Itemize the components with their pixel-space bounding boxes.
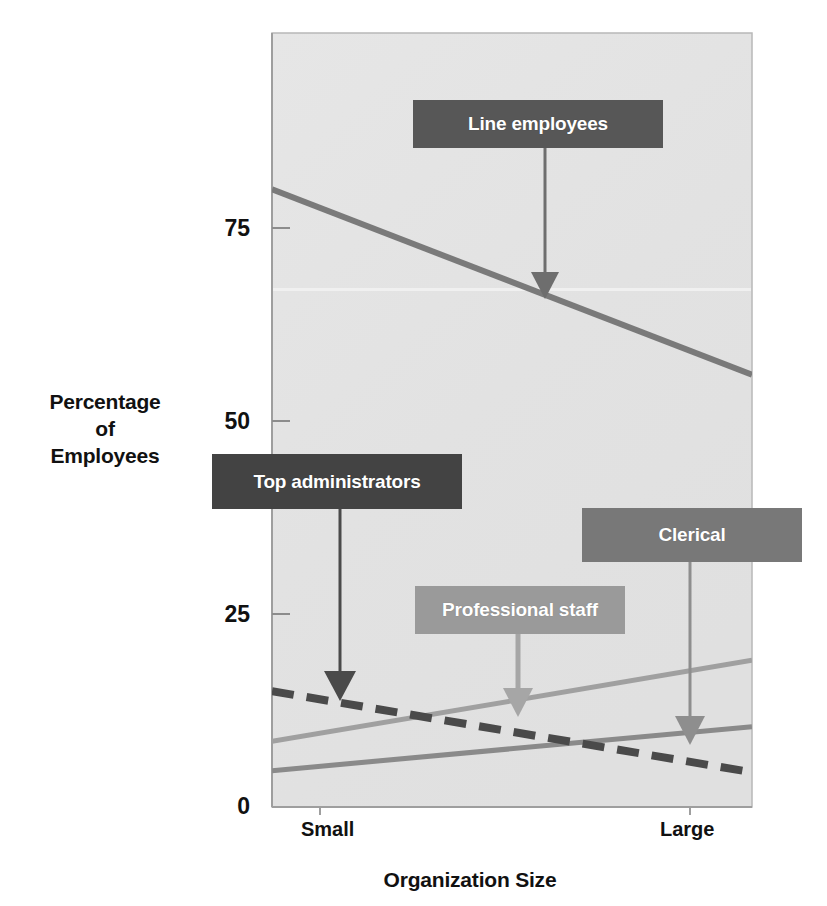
x-tick-label-large: Large: [660, 818, 714, 841]
y-tick-label-0: 0: [190, 793, 250, 820]
x-axis-title: Organization Size: [260, 868, 680, 892]
callout-professional-staff: Professional staff: [415, 586, 625, 634]
plot-highlight-band: [273, 288, 751, 291]
y-tick-label-50: 50: [190, 408, 250, 435]
callout-clerical: Clerical: [582, 508, 802, 562]
chart-container: Percentage of Employees Organization Siz…: [0, 0, 827, 906]
y-tick-label-75: 75: [190, 215, 250, 242]
callout-top-administrators: Top administrators: [212, 454, 462, 509]
x-tick-label-small: Small: [301, 818, 354, 841]
y-axis-title-line-1: Percentage: [10, 388, 200, 415]
y-axis-title-line-3: Employees: [10, 442, 200, 469]
x-axis-ticks: [320, 807, 690, 815]
callout-line-employees: Line employees: [413, 100, 663, 148]
y-axis-title-line-2: of: [10, 415, 200, 442]
y-axis-title: Percentage of Employees: [10, 388, 200, 469]
y-tick-label-25: 25: [190, 601, 250, 628]
